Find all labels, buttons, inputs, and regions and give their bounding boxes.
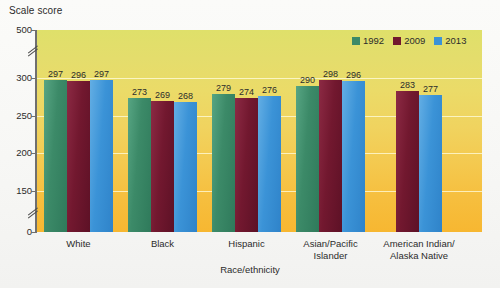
bar-value-label: 296: [339, 70, 368, 80]
bar: [419, 95, 442, 232]
bar: [342, 81, 365, 232]
bar-value-label: 276: [255, 85, 284, 95]
bar: [396, 91, 419, 232]
bar: [296, 86, 319, 232]
legend-item: 2009: [393, 35, 425, 46]
bar: [67, 81, 90, 232]
bar: [258, 96, 281, 232]
x-axis-title: Race/ethnicity: [0, 264, 500, 275]
legend-label: 2013: [445, 35, 466, 46]
category-label-line: Alaska Native: [364, 250, 474, 262]
bar-value-label: 297: [87, 69, 116, 79]
bar: [212, 94, 235, 232]
bar-value-label: 268: [171, 91, 200, 101]
bar: [151, 101, 174, 232]
legend-item: 2013: [434, 35, 466, 46]
legend-label: 2009: [404, 35, 425, 46]
chart-page: Scale score 5003002502001500 29729629727…: [0, 0, 500, 288]
legend-item: 1992: [352, 35, 384, 46]
bar: [44, 80, 67, 232]
category-label-line: American Indian/: [364, 238, 474, 250]
bar: [90, 80, 113, 232]
x-axis-category-label: American Indian/Alaska Native: [364, 238, 474, 261]
legend-swatch: [352, 37, 360, 45]
bar: [174, 102, 197, 232]
legend-swatch: [434, 37, 442, 45]
bar-value-label: 277: [416, 84, 445, 94]
bar: [235, 98, 258, 232]
bar: [319, 80, 342, 232]
legend: 199220092013: [352, 35, 466, 46]
legend-label: 1992: [363, 35, 384, 46]
legend-swatch: [393, 37, 401, 45]
bar: [128, 98, 151, 232]
